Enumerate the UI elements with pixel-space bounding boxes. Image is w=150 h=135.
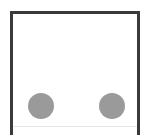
frame-bottom-edge <box>13 126 137 127</box>
circle-left <box>28 93 54 119</box>
figure-canvas <box>0 0 150 135</box>
circle-right <box>99 93 125 119</box>
outer-frame <box>10 11 140 135</box>
